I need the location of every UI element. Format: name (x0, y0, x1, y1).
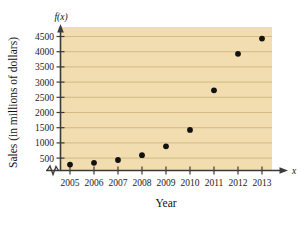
x-axis-variable-label: x (291, 166, 297, 176)
data-point-2006 (91, 160, 97, 166)
y-tick-label-group: 4500 4000 3500 3000 2500 2000 1500 1000 … (35, 32, 54, 164)
data-point-2011 (211, 87, 217, 93)
chart-figure: 4500 4000 3500 3000 2500 2000 1500 1000 … (0, 0, 306, 227)
y-axis-title: Sales (in millions of dollars) (7, 37, 20, 168)
x-tick-label-2006: 2006 (85, 178, 104, 188)
data-point-2008 (139, 152, 145, 158)
y-tick-label-4000: 4000 (35, 47, 54, 57)
x-tick-label-2012: 2012 (229, 178, 248, 188)
y-tick-label-1000: 1000 (35, 138, 54, 148)
data-point-2012 (235, 51, 241, 57)
data-point-2005 (67, 162, 73, 168)
x-tick-label-group: 2005 2006 2007 2008 2009 2010 2011 2012 … (61, 178, 272, 188)
x-tick-label-2007: 2007 (109, 178, 128, 188)
y-tick-label-500: 500 (40, 154, 55, 164)
x-tick-label-2009: 2009 (157, 178, 176, 188)
x-tick-label-2005: 2005 (61, 178, 80, 188)
data-point-2007 (115, 157, 121, 163)
data-point-2010 (187, 127, 193, 133)
y-axis-function-label: f(x) (54, 12, 67, 23)
x-tick-label-2010: 2010 (181, 178, 200, 188)
y-tick-label-3000: 3000 (35, 78, 54, 88)
y-tick-label-2500: 2500 (35, 93, 54, 103)
y-tick-label-2000: 2000 (35, 108, 54, 118)
data-point-2013 (259, 36, 265, 42)
x-tick-label-2013: 2013 (253, 178, 272, 188)
y-tick-label-1500: 1500 (35, 123, 54, 133)
x-tick-label-2008: 2008 (133, 178, 152, 188)
y-tick-label-3500: 3500 (35, 62, 54, 72)
scatter-chart: 4500 4000 3500 3000 2500 2000 1500 1000 … (0, 0, 306, 227)
y-tick-label-4500: 4500 (35, 32, 54, 42)
data-point-2009 (163, 143, 169, 149)
x-tick-label-2011: 2011 (205, 178, 224, 188)
x-axis-title: Year (155, 197, 176, 209)
